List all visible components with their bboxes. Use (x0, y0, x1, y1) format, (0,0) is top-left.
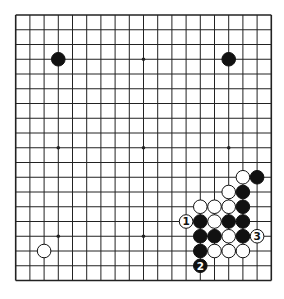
black-stone (194, 244, 208, 258)
stone-disc (236, 170, 250, 184)
star-point (142, 146, 146, 150)
white-stone (236, 244, 250, 258)
stone-disc (208, 229, 222, 243)
black-stone (194, 229, 208, 243)
white-stone-move-3: 3 (250, 229, 264, 243)
star-point (227, 146, 231, 150)
move-number-label: 1 (182, 215, 189, 227)
stone-disc (236, 200, 250, 214)
stone-disc (37, 244, 51, 258)
stone-disc (222, 52, 236, 66)
white-stone (208, 200, 222, 214)
stone-disc (208, 200, 222, 214)
stone-disc (222, 215, 236, 229)
white-stone-move-1: 1 (179, 215, 193, 229)
star-point (142, 57, 146, 61)
white-stone (37, 244, 51, 258)
white-stone (194, 200, 208, 214)
white-stone (236, 170, 250, 184)
black-stone-move-2: 2 (194, 259, 208, 273)
white-stone (222, 185, 236, 199)
stone-disc (236, 244, 250, 258)
stone-disc (222, 185, 236, 199)
stone-disc (194, 200, 208, 214)
black-stone (236, 229, 250, 243)
stone-disc (222, 244, 236, 258)
stone-disc (222, 229, 236, 243)
black-stone (208, 229, 222, 243)
stone-disc (208, 215, 222, 229)
black-stone (222, 215, 236, 229)
white-stone (222, 229, 236, 243)
black-stone (236, 215, 250, 229)
star-point (57, 234, 61, 238)
go-board: 132 (0, 0, 284, 299)
move-number-label: 2 (197, 260, 204, 272)
go-board-diagram: 132 (0, 0, 284, 299)
stone-disc (236, 229, 250, 243)
stone-disc (52, 52, 66, 66)
stone-disc (236, 185, 250, 199)
stone-disc (250, 170, 264, 184)
move-number-label: 3 (253, 230, 260, 242)
black-stone (194, 215, 208, 229)
stone-disc (208, 244, 222, 258)
black-stone (222, 52, 236, 66)
stone-disc (194, 229, 208, 243)
black-stone (236, 185, 250, 199)
black-stone (236, 200, 250, 214)
white-stone (208, 215, 222, 229)
white-stone (208, 244, 222, 258)
white-stone (222, 200, 236, 214)
white-stone (222, 244, 236, 258)
star-point (142, 234, 146, 238)
black-stone (250, 170, 264, 184)
stone-disc (236, 215, 250, 229)
stone-disc (194, 215, 208, 229)
stone-disc (194, 244, 208, 258)
stone-disc (222, 200, 236, 214)
star-point (57, 146, 61, 150)
black-stone (52, 52, 66, 66)
